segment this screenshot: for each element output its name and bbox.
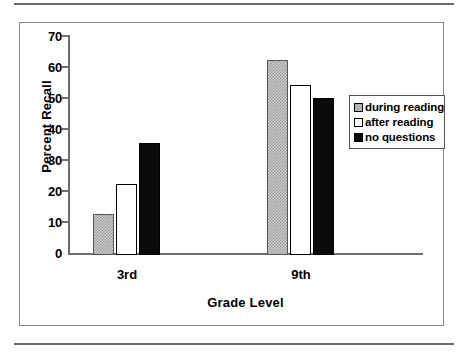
- bar-9th-during-reading: [267, 60, 288, 255]
- x-axis-title: Grade Level: [68, 295, 423, 310]
- legend-label-after-reading: after reading: [365, 116, 433, 128]
- y-tick-mark-30: [62, 159, 69, 161]
- page-rule-top: [14, 3, 454, 5]
- bar-3rd-no-questions: [139, 143, 160, 255]
- bar-3rd-after-reading: [116, 184, 137, 255]
- figure-frame: 70 60 50 40 30 20 10 0: [19, 22, 444, 326]
- y-tick-10: 10: [20, 216, 62, 229]
- bar-9th-after-reading: [290, 85, 311, 255]
- legend-item-after-reading: after reading: [354, 115, 441, 129]
- y-tick-mark-40: [62, 128, 69, 130]
- legend-swatch-icon-after-reading: [354, 118, 363, 127]
- y-axis-title: Percent Recall: [39, 57, 54, 197]
- y-tick-mark-50: [62, 97, 69, 99]
- legend-label-during-reading: during reading: [365, 101, 444, 113]
- legend-item-during-reading: during reading: [354, 100, 441, 114]
- y-tick-70: 70: [20, 30, 62, 43]
- y-tick-mark-70: [62, 35, 69, 37]
- y-tick-mark-20: [62, 190, 69, 192]
- y-tick-0: 0: [20, 247, 62, 260]
- legend-item-no-questions: no questions: [354, 130, 441, 144]
- legend-label-no-questions: no questions: [365, 131, 435, 143]
- legend-swatch-icon-during-reading: [354, 103, 363, 112]
- x-tick-label-3rd: 3rd: [87, 267, 167, 282]
- y-tick-mark-60: [62, 66, 69, 68]
- bar-chart-plot: 70 60 50 40 30 20 10 0: [20, 23, 445, 327]
- bar-3rd-during-reading: [93, 214, 114, 255]
- chart-legend: during reading after reading no question…: [349, 95, 445, 149]
- x-tick-label-9th: 9th: [261, 267, 341, 282]
- legend-swatch-icon-no-questions: [354, 133, 363, 142]
- y-tick-mark-10: [62, 221, 69, 223]
- bar-9th-no-questions: [313, 98, 334, 255]
- page-rule-bottom: [14, 343, 454, 345]
